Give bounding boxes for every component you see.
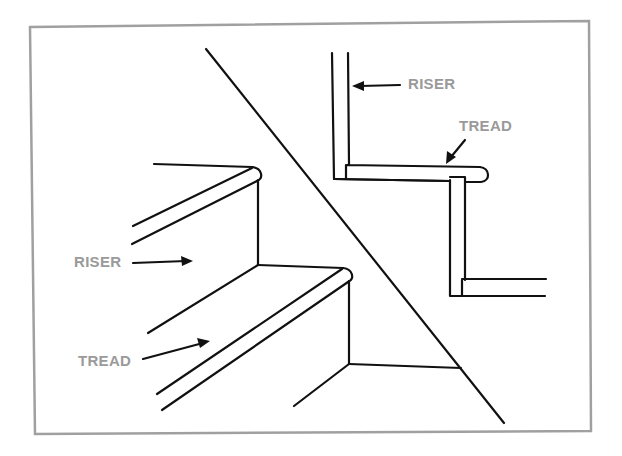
figure-frame [30, 21, 591, 434]
lower-tread-back-edge [258, 265, 343, 268]
floor-back-edge [349, 364, 461, 368]
lower-nosing-top-line [157, 269, 342, 394]
perspective-riser-label: RISER [74, 253, 121, 270]
perspective-tread-arrow-shaft [143, 343, 203, 359]
perspective-view: RISER TREAD [74, 164, 461, 410]
section-tread-bottom [334, 179, 450, 181]
floor-side-edge [294, 364, 349, 406]
upper-riser-outer [332, 53, 334, 179]
section-riser-arrow-shaft [360, 85, 400, 86]
upper-nosing-top-line [133, 168, 252, 226]
upper-nosing [252, 167, 261, 181]
upper-nosing-bottom-line [132, 181, 257, 244]
section-riser-arrowhead-icon [352, 81, 364, 91]
perspective-tread-label: TREAD [78, 352, 131, 369]
upper-tread-back-edge [154, 164, 252, 167]
upper-riser-inner [348, 53, 349, 165]
section-tread-label: TREAD [459, 117, 512, 134]
section-view: RISER TREAD [332, 53, 546, 296]
lower-tread-side-edge [148, 265, 258, 333]
section-tread-arrow-shaft [451, 140, 465, 157]
perspective-tread-arrowhead-icon [197, 338, 210, 348]
lower-nosing [343, 268, 352, 282]
perspective-riser-arrow-shaft [133, 261, 186, 263]
section-riser-label: RISER [408, 75, 455, 92]
perspective-riser-arrowhead-icon [181, 256, 193, 266]
stair-diagram: RISER TREAD RISER TREAD [0, 0, 622, 456]
